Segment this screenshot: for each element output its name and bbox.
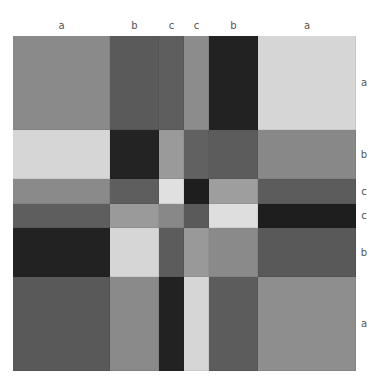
grid-cell: [258, 36, 356, 130]
column-label: c: [166, 20, 178, 32]
grid-cell: [110, 228, 159, 277]
row-label: c: [358, 210, 370, 222]
grid-cell: [258, 130, 356, 179]
color-block-grid: [13, 36, 356, 371]
grid-cell: [184, 179, 209, 204]
grid-cell: [184, 204, 209, 228]
grid-cell: [110, 36, 159, 130]
column-label: b: [228, 20, 240, 32]
grid-cell: [159, 130, 184, 179]
grid-cell: [13, 179, 110, 204]
grid-cell: [110, 277, 159, 371]
grid-cell: [184, 228, 209, 277]
row-label: a: [358, 318, 370, 330]
grid-cell: [209, 228, 258, 277]
grid-cell: [184, 277, 209, 371]
grid-cell: [184, 130, 209, 179]
grid-cell: [258, 277, 356, 371]
grid-cell: [209, 179, 258, 204]
grid-cell: [258, 228, 356, 277]
grid-cell: [159, 204, 184, 228]
grid-cell: [159, 277, 184, 371]
grid-cell: [13, 130, 110, 179]
column-label: a: [56, 20, 68, 32]
grid-cell: [258, 204, 356, 228]
row-label: b: [358, 247, 370, 259]
grid-cell: [209, 204, 258, 228]
grid-cell: [258, 179, 356, 204]
grid-cell: [209, 130, 258, 179]
column-label: c: [191, 20, 203, 32]
row-label: a: [358, 77, 370, 89]
grid-cell: [13, 228, 110, 277]
grid-cell: [13, 36, 110, 130]
grid-cell: [13, 277, 110, 371]
grid-cell: [110, 179, 159, 204]
block-grid-figure: a b c c b a a b c c b a: [0, 0, 380, 386]
grid-cell: [110, 204, 159, 228]
grid-cell: [110, 130, 159, 179]
grid-cell: [159, 228, 184, 277]
grid-cell: [159, 36, 184, 130]
grid-cell: [13, 204, 110, 228]
column-label: b: [129, 20, 141, 32]
grid-cell: [184, 36, 209, 130]
row-label: b: [358, 149, 370, 161]
column-label: a: [301, 20, 313, 32]
row-label: c: [358, 186, 370, 198]
grid-cell: [159, 179, 184, 204]
grid-cell: [209, 277, 258, 371]
grid-cell: [209, 36, 258, 130]
